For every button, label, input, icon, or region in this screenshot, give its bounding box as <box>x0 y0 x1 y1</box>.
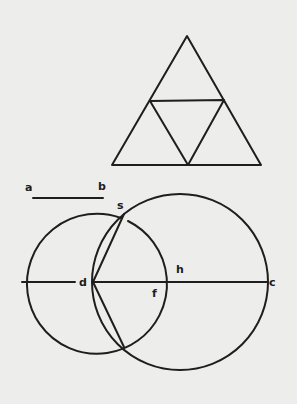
label-f: f <box>152 287 157 300</box>
label-h: h <box>176 263 184 276</box>
label-d: d <box>79 276 87 289</box>
label-c: c <box>269 276 276 289</box>
inner-triangle <box>150 100 224 165</box>
geometry-figure: a b s d f h c <box>0 0 297 404</box>
chord-d-s <box>93 214 124 282</box>
diagram-canvas: a b s d f h c <box>0 0 297 404</box>
label-b: b <box>98 180 106 193</box>
label-a: a <box>25 181 32 194</box>
label-s: s <box>117 199 124 212</box>
circle-left <box>27 214 167 354</box>
